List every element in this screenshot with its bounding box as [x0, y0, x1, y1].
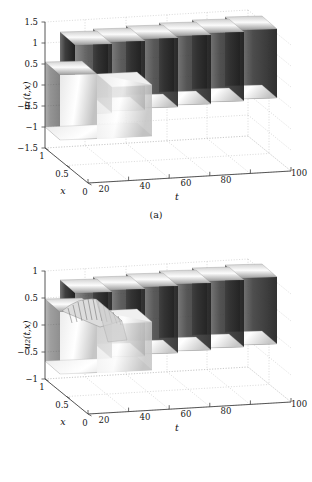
x-tick-a-1: 0.5	[55, 169, 69, 179]
z-ticks-b	[42, 271, 46, 379]
t-tick-a-4: 80	[221, 175, 232, 185]
panel-a: 1.5 1 0.5 0 −0.5 −1 −1.5 1 0.5 0 20 40 6…	[0, 0, 312, 241]
z-axis-label-b-base: u	[22, 343, 32, 349]
x-tick-a-2: 0	[82, 187, 87, 197]
t-tick-a-5: 100	[291, 168, 307, 178]
z-axis-label-b-sub: 2	[24, 339, 32, 343]
figure-container: 1.5 1 0.5 0 −0.5 −1 −1.5 1 0.5 0 20 40 6…	[0, 0, 312, 482]
t-tick-a-3: 60	[181, 178, 192, 188]
x-tick-b-1: 0.5	[55, 400, 69, 410]
t-tick-b-5: 100	[291, 399, 307, 409]
surface-mesh-a	[45, 16, 277, 140]
t-tick-a-2: 40	[140, 181, 151, 191]
z-tick-a-1: 1	[33, 38, 38, 48]
z-tick-a-3: 0	[33, 80, 38, 90]
z-tick-a-5: −1	[25, 122, 38, 132]
axes-a: 1.5 1 0.5 0 −0.5 −1 −1.5 1 0.5 0 20 40 6…	[0, 0, 312, 210]
z-axis-label-a: u1(t,x)	[22, 81, 32, 110]
t-tick-b-1: 20	[99, 415, 110, 425]
z-axis-label-a-args: (t,x)	[22, 81, 32, 100]
z-tick-a-0: 1.5	[24, 17, 38, 27]
plot-b: 1 0.5 0 −0.5 −1 1 0.5 0 20 40 60 80 100 …	[0, 241, 312, 451]
z-axis-label-b-args: (t,x)	[22, 320, 32, 339]
x-tick-b-0: 1	[39, 382, 44, 392]
z-tick-b-2: 0	[33, 320, 38, 330]
z-tick-a-6: −1.5	[17, 143, 38, 153]
plot-a: 1.5 1 0.5 0 −0.5 −1 −1.5 1 0.5 0 20 40 6…	[0, 0, 312, 210]
x-tick-b-2: 0	[82, 418, 87, 428]
z-tick-b-1: 0.5	[24, 293, 38, 303]
z-tick-a-2: 0.5	[24, 59, 38, 69]
t-tick-b-2: 40	[140, 412, 151, 422]
t-tick-a-1: 20	[99, 184, 110, 194]
x-axis-label-b: x	[60, 416, 66, 427]
t-tick-b-3: 60	[181, 409, 192, 419]
z-axis-label-a-sub: 1	[24, 100, 32, 104]
t-tick-b-4: 80	[221, 406, 232, 416]
grid-floor-a	[45, 136, 291, 183]
x-tick-a-0: 1	[39, 151, 44, 161]
z-tick-b-4: −1	[25, 374, 38, 384]
x-axis-label-a: x	[60, 185, 66, 196]
t-axis-label-b: t	[175, 422, 179, 433]
z-ticks-a	[42, 22, 46, 148]
z-axis-label-a-base: u	[22, 104, 32, 110]
panel-b: 1 0.5 0 −0.5 −1 1 0.5 0 20 40 60 80 100 …	[0, 241, 312, 482]
z-axis-label-b: u2(t,x)	[22, 320, 32, 349]
axes-b: 1 0.5 0 −0.5 −1 1 0.5 0 20 40 60 80 100 …	[0, 241, 312, 451]
caption-a: (a)	[0, 209, 312, 220]
surface-mesh-b	[45, 264, 277, 374]
t-axis-label-a: t	[175, 191, 179, 202]
grid-floor-b	[45, 367, 291, 414]
z-tick-b-0: 1	[33, 266, 38, 276]
